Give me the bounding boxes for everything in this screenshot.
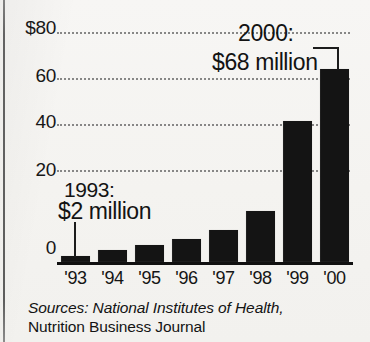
x-axis-label-99: '99 — [283, 268, 312, 288]
y-axis-label-40: 40 — [6, 112, 56, 131]
source-line-2: Nutrition Business Journal — [28, 317, 358, 336]
source-attribution: Sources: National Institutes of Health, … — [28, 298, 358, 336]
callout-2000-amount: $68 million — [212, 50, 318, 75]
callout-1993-amount: $2 million — [58, 199, 151, 224]
x-axis-label-96: '96 — [172, 268, 201, 288]
bar-96 — [172, 239, 201, 262]
x-axis-label-98: '98 — [246, 268, 275, 288]
gridline-60 — [57, 78, 350, 80]
bar-97 — [209, 230, 238, 262]
x-axis-label-95: '95 — [135, 268, 164, 288]
y-axis-label-0: 0 — [6, 238, 56, 257]
x-axis-baseline — [57, 262, 353, 265]
gridline-80 — [57, 32, 350, 34]
x-axis-label-94: '94 — [98, 268, 127, 288]
callout-2000-leader-vertical — [337, 47, 339, 70]
source-line-1: Sources: National Institutes of Health, — [28, 298, 358, 317]
bar-94 — [98, 250, 127, 262]
callout-2000-leader-horizontal — [313, 47, 339, 49]
x-axis-label-97: '97 — [209, 268, 238, 288]
bar-98 — [246, 211, 275, 262]
callout-2000-year: 2000: — [238, 21, 294, 46]
bar-99 — [283, 121, 312, 262]
y-axis-label-20: 20 — [6, 160, 56, 179]
y-axis-label-80: $80 — [6, 18, 56, 37]
bar-chart-plot-area: $80 60 40 20 0 '93 '94 '95 '96 '97 '98 '… — [0, 0, 370, 342]
callout-1993-leader-line — [74, 222, 76, 257]
bar-00 — [320, 69, 349, 262]
x-axis-label-00: '00 — [320, 268, 349, 288]
x-axis-label-93: '93 — [61, 268, 90, 288]
bar-95 — [135, 245, 164, 262]
y-axis-label-60: 60 — [6, 66, 56, 85]
